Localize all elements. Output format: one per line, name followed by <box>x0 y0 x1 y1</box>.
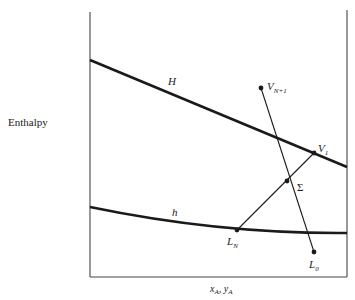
label-h: h <box>172 206 178 218</box>
y-axis-label: Enthalpy <box>8 116 48 128</box>
point-V-1 <box>312 151 317 156</box>
label-sigma: Σ <box>297 181 303 193</box>
label-L-0: L0 <box>308 258 319 273</box>
point-L-0 <box>312 250 317 255</box>
liquid-enthalpy-curve-h <box>90 207 347 233</box>
plot-frame <box>90 10 347 277</box>
enthalpy-diagram: H h VN+1 V1 Σ LN L0 Enthalpy xA, yA <box>0 0 355 300</box>
vapor-enthalpy-line-H <box>90 60 347 167</box>
label-V-N-plus-1: VN+1 <box>267 80 287 95</box>
line-VN1-L0 <box>261 88 314 252</box>
point-L-N <box>235 228 240 233</box>
point-V-N-plus-1 <box>259 86 264 91</box>
x-axis-label: xA, yA <box>209 283 233 296</box>
point-sigma <box>285 179 290 184</box>
label-H: H <box>167 75 177 87</box>
label-L-N: LN <box>226 235 238 250</box>
